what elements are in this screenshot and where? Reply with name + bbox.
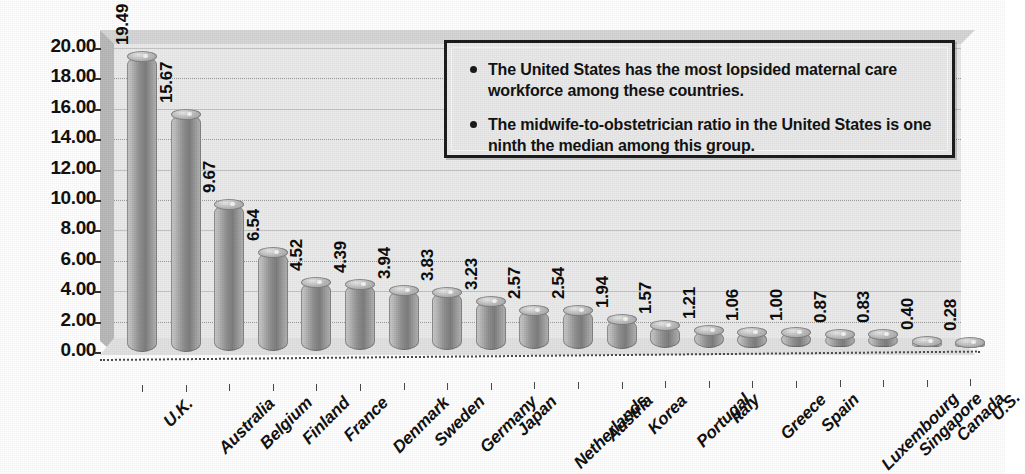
x-category-label: U.K. [160, 394, 198, 432]
annotation-callout-inner: The United States has the most lopsided … [451, 47, 948, 151]
annotation-callout: The United States has the most lopsided … [444, 40, 955, 158]
bullet-icon [470, 121, 477, 128]
annotation-text: The midwife-to-obstetrician ratio in the… [488, 114, 933, 156]
annotation-bullet: The midwife-to-obstetrician ratio in the… [464, 114, 933, 156]
annotation-text: The United States has the most lopsided … [488, 59, 933, 101]
bullet-icon [470, 66, 477, 73]
x-category-label: Spain [817, 390, 863, 436]
annotation-bullet: The United States has the most lopsided … [464, 59, 933, 101]
